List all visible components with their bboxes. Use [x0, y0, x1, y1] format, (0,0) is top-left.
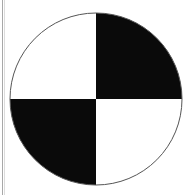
quadrant-top-right: [96, 13, 182, 99]
quadrant-marker-icon: [0, 0, 192, 195]
quadrant-bottom-left: [10, 99, 96, 185]
